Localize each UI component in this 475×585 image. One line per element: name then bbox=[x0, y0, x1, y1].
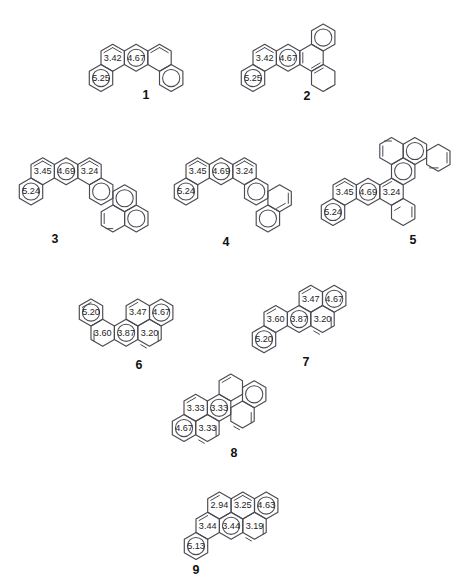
ring-label: 3.42 bbox=[256, 53, 274, 63]
ring-label: 5.24 bbox=[324, 207, 342, 217]
ring-label: 3.44 bbox=[222, 521, 240, 531]
ring-label: 4.67 bbox=[127, 53, 145, 63]
ring-label: 2.94 bbox=[211, 500, 229, 510]
ring-label: 5.24 bbox=[22, 186, 40, 196]
panel-5: 3.45 4.69 3.24 5.24 5 bbox=[321, 138, 450, 248]
ring-label: 5.25 bbox=[244, 73, 262, 83]
compound-number: 5 bbox=[410, 233, 417, 247]
ring-label: 3.60 bbox=[94, 328, 112, 338]
ring-label: 3.42 bbox=[104, 53, 122, 63]
ring-label: 5.13 bbox=[187, 541, 205, 551]
ring-label: 3.45 bbox=[189, 166, 207, 176]
ring-label: 4.67 bbox=[279, 53, 297, 63]
panel-1-skeleton bbox=[89, 44, 183, 91]
ring-label: 3.24 bbox=[236, 166, 254, 176]
ring-label: 3.33 bbox=[210, 403, 228, 413]
ring-label: 5.20 bbox=[82, 307, 100, 317]
ring-label: 3.60 bbox=[267, 314, 285, 324]
ring-label: 3.19 bbox=[246, 521, 264, 531]
ring-label: 4.69 bbox=[57, 166, 75, 176]
compound-number: 8 bbox=[231, 446, 238, 460]
ring-label: 3.20 bbox=[141, 328, 159, 338]
ring-label: 4.69 bbox=[212, 166, 230, 176]
ring-label: 5.20 bbox=[255, 334, 273, 344]
panel-6: 5.20 3.47 4.67 3.60 3.87 3.20 6 bbox=[79, 299, 173, 372]
ring-label: 4.63 bbox=[257, 500, 275, 510]
ring-label: 3.45 bbox=[336, 187, 354, 197]
ring-label: 5.24 bbox=[177, 186, 195, 196]
ring-label: 3.87 bbox=[290, 314, 308, 324]
ring-label: 4.67 bbox=[175, 423, 193, 433]
compound-number: 7 bbox=[303, 355, 310, 369]
panel-4: 3.45 4.69 3.24 5.24 4 bbox=[174, 158, 291, 250]
compound-number: 1 bbox=[143, 88, 150, 102]
compound-number: 2 bbox=[304, 89, 311, 103]
ring-label: 3.44 bbox=[199, 521, 217, 531]
ring-label: 3.20 bbox=[314, 314, 332, 324]
ring-label: 4.67 bbox=[325, 294, 343, 304]
ring-label: 3.24 bbox=[383, 187, 401, 197]
panel-7: 3.47 4.67 3.60 3.87 3.20 5.20 7 bbox=[252, 285, 346, 369]
ring-label: 3.33 bbox=[187, 403, 205, 413]
panel-9: 2.94 3.25 4.63 3.44 3.44 3.19 5.13 9 bbox=[184, 492, 278, 577]
ring-label: 4.69 bbox=[359, 187, 377, 197]
ring-label: 3.45 bbox=[34, 166, 52, 176]
structure-plate: 3.42 4.67 5.25 1 bbox=[0, 0, 475, 585]
ring-label: 3.47 bbox=[302, 294, 320, 304]
ring-label: 5.25 bbox=[92, 73, 110, 83]
compound-number: 4 bbox=[223, 235, 230, 249]
ring-label: 3.87 bbox=[117, 328, 135, 338]
ring-label: 4.67 bbox=[152, 307, 170, 317]
panel-2: 3.42 4.67 5.25 2 bbox=[241, 24, 335, 103]
panel-8: 3.33 3.33 4.67 3.33 8 bbox=[172, 374, 266, 460]
panel-1: 3.42 4.67 5.25 1 bbox=[89, 44, 183, 102]
ring-label: 3.47 bbox=[129, 307, 147, 317]
ring-label: 3.33 bbox=[199, 423, 217, 433]
compound-number: 9 bbox=[193, 563, 200, 577]
panel-3: 3.45 4.69 3.24 5.24 3 bbox=[19, 158, 148, 247]
ring-label: 3.25 bbox=[234, 500, 252, 510]
compound-number: 3 bbox=[52, 232, 59, 246]
compound-number: 6 bbox=[136, 358, 143, 372]
ring-label: 3.24 bbox=[81, 166, 99, 176]
